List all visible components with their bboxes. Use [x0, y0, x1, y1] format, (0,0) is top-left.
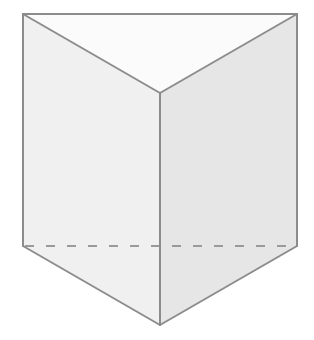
triangular-prism-diagram: [0, 0, 314, 340]
